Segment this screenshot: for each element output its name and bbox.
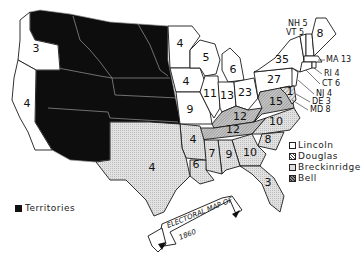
legend-item-douglas: Douglas (289, 151, 361, 162)
territories-legend: Territories (15, 203, 75, 213)
svg-text:9: 9 (226, 148, 233, 161)
state-connecticut (300, 62, 312, 72)
legend-item-breckinridge: Breckinridge (289, 162, 361, 173)
svg-text:CT 6: CT 6 (322, 79, 340, 88)
svg-text:ELECTORAL MAP OF: ELECTORAL MAP OF (166, 196, 235, 230)
state-massachusetts (304, 56, 322, 62)
territories-label: Territories (25, 203, 75, 213)
legend: Lincoln Douglas Breckinridge Bell (289, 140, 361, 184)
svg-text:VT 5: VT 5 (286, 28, 304, 37)
svg-text:10: 10 (269, 115, 283, 128)
svg-text:12: 12 (233, 110, 247, 123)
legend-label: Douglas (298, 151, 338, 162)
svg-text:13: 13 (220, 89, 234, 102)
svg-text:15: 15 (269, 95, 283, 108)
svg-text:9: 9 (187, 103, 194, 116)
svg-text:5: 5 (203, 51, 210, 64)
svg-text:4: 4 (24, 97, 31, 110)
svg-text:4: 4 (190, 133, 197, 146)
svg-text:1: 1 (287, 85, 294, 98)
territory-swatch-icon (15, 205, 22, 212)
svg-text:6: 6 (230, 63, 237, 76)
svg-text:3: 3 (265, 176, 272, 189)
douglas-swatch-icon (289, 153, 296, 160)
state-texas (96, 122, 190, 216)
svg-text:MD 8: MD 8 (310, 105, 331, 114)
svg-text:12: 12 (226, 123, 240, 136)
svg-text:1860: 1860 (178, 228, 198, 242)
state-rhode-island (312, 62, 316, 68)
svg-text:4: 4 (177, 37, 184, 50)
legend-label: Bell (298, 173, 317, 184)
legend-label: Lincoln (298, 140, 333, 151)
breckinridge-swatch-icon (289, 164, 296, 171)
svg-text:27: 27 (267, 73, 281, 86)
lincoln-swatch-icon (289, 142, 296, 149)
legend-label: Breckinridge (298, 162, 361, 173)
svg-text:6: 6 (193, 158, 200, 171)
electoral-map: 3 4 4 4 9 5 6 11 13 23 27 35 8 12 15 1 1… (0, 0, 364, 271)
bell-swatch-icon (289, 175, 296, 182)
svg-text:11: 11 (203, 87, 217, 100)
svg-text:4: 4 (183, 75, 190, 88)
svg-text:RI 4: RI 4 (324, 69, 340, 78)
svg-text:35: 35 (275, 53, 289, 66)
svg-text:23: 23 (238, 86, 252, 99)
svg-text:NH 5: NH 5 (288, 19, 308, 28)
svg-text:8: 8 (265, 133, 272, 146)
svg-text:MA 13: MA 13 (326, 55, 351, 64)
svg-text:3: 3 (33, 42, 40, 55)
legend-item-lincoln: Lincoln (289, 140, 361, 151)
legend-item-bell: Bell (289, 173, 361, 184)
svg-text:7: 7 (209, 147, 216, 160)
svg-text:10: 10 (243, 146, 257, 159)
state-florida (240, 166, 284, 212)
svg-text:4: 4 (149, 161, 156, 174)
svg-text:8: 8 (317, 27, 324, 40)
